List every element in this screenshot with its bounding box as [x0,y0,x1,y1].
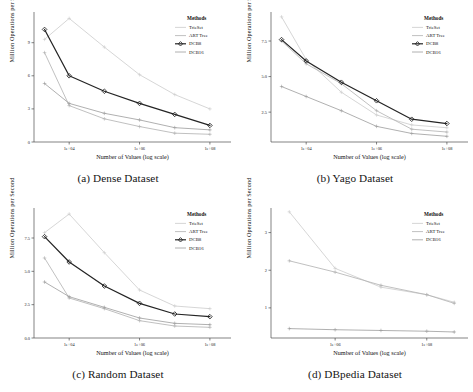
series-line-art-tree [282,41,447,132]
x-tick-label: 1e+08 [421,342,433,347]
data-point-marker [208,128,212,132]
legend-entry-dcb16: DCB16 [189,246,204,251]
y-tick-label: 3 [265,230,268,235]
data-point-marker [445,126,449,130]
legend-entry-dcb16: DCB16 [426,50,441,55]
x-tick-label: 1e+06 [371,146,383,151]
data-point-marker [173,93,177,97]
y-tick-label: 6 [28,73,31,78]
legend-title: Methods [187,15,206,21]
data-point-marker [103,117,107,121]
y-tick-label: 9 [28,40,31,45]
x-tick-label: 1e+08 [204,342,216,347]
x-tick-label: 1e+06 [330,342,342,347]
data-point-marker [173,131,177,135]
data-point-marker [138,316,142,320]
caption-d: (d) DBpedia Dataset [237,368,473,380]
legend-entry-art-tree: ART Tree [426,33,445,38]
plot-area-d: 1231e+061e+08Number of Values (log scale… [237,202,473,370]
series-line-trieset [45,18,210,108]
x-tick-label: 1e+04 [301,146,313,151]
y-tick-label: 2 [265,268,267,273]
data-point-marker [410,132,414,136]
y-tick-label: 7.5 [25,236,31,241]
legend-entry-art-tree: ART Tree [189,229,208,234]
data-point-marker [208,323,212,327]
data-point-marker [288,327,292,331]
y-tick-label: 5.0 [262,74,268,79]
series-line-trieset [282,17,447,128]
x-tick-label: 1e+08 [441,146,453,151]
legend-title: Methods [424,211,443,217]
plot-area-a: 03691e+041e+061e+08Number of Values (log… [0,6,236,174]
data-point-marker [425,293,429,297]
legend-entry-art-tree: ART Tree [426,229,445,234]
chart-svg-dense: 03691e+041e+061e+08Number of Values (log… [0,6,236,174]
y-tick-label: 7.5 [262,39,268,44]
data-point-marker [208,107,212,111]
series-line-art-tree [289,261,454,304]
x-tick-label: 1e+06 [134,342,146,347]
x-tick-label: 1e+04 [64,146,76,151]
legend-entry-trieset: TrieSet [189,25,204,30]
x-tick-label: 1e+06 [134,146,146,151]
series-line-dcb16 [289,329,454,332]
legend-entry-dcb16: DCB16 [426,237,441,242]
x-axis-label: Number of Values (log scale) [96,349,168,357]
data-point-marker [138,125,142,129]
x-axis-label: Number of Values (log scale) [333,349,405,357]
legend-entry-dcb16: DCB16 [189,50,204,55]
data-point-marker [43,256,47,260]
legend-entry-dcb8: DCB8 [189,41,202,46]
data-point-marker [445,130,449,134]
series-line-dcb16 [45,282,210,325]
legend-entry-dcb8: DCB8 [189,237,202,242]
figure-root: Million Operations per Second 03691e+041… [0,0,473,392]
data-point-marker [410,123,414,127]
data-point-marker [43,280,47,284]
data-point-marker [103,112,107,116]
data-point-marker [333,328,337,332]
data-point-marker [173,126,177,130]
y-tick-label: 5.0 [25,269,31,274]
x-tick-label: 1e+08 [204,146,216,151]
chart-svg-yago: 2.55.07.51e+041e+061e+08Number of Values… [237,6,473,174]
series-line-art-tree [45,258,210,327]
data-point-marker [138,118,142,122]
caption-c: (c) Random Dataset [0,368,236,380]
y-axis-label-c: Million Operations per Second [14,98,26,218]
y-tick-label: 3 [28,106,31,111]
legend-entry-trieset: TrieSet [426,221,441,226]
panel-random: Million Operations per Second 0.02.55.07… [0,196,236,392]
data-point-marker [379,329,383,333]
data-point-marker [173,322,177,326]
panel-yago: Million Operations per Second 2.55.07.51… [237,0,473,196]
x-tick-label: 1e+04 [64,342,76,347]
data-point-marker [445,135,449,139]
y-tick-label: 2.5 [25,302,31,307]
legend-title: Methods [187,211,206,217]
plot-area-b: 2.55.07.51e+041e+061e+08Number of Values… [237,6,473,174]
legend-entry-trieset: TrieSet [426,25,441,30]
data-point-marker [208,307,212,311]
legend-entry-dcb8: DCB8 [426,41,439,46]
data-point-marker [425,329,429,333]
y-tick-label: 0 [28,140,31,145]
chart-svg-random: 0.02.55.07.51e+041e+061e+08Number of Val… [0,202,236,370]
caption-b: (b) Yago Dataset [237,172,473,184]
y-tick-label: 0.0 [25,336,31,341]
data-point-marker [43,51,47,55]
x-axis-label: Number of Values (log scale) [333,153,405,161]
y-tick-label: 1 [265,305,267,310]
data-point-marker [288,259,292,263]
caption-a: (a) Dense Dataset [0,172,236,184]
data-point-marker [280,85,284,89]
chart-svg-dbpedia: 1231e+061e+08Number of Values (log scale… [237,202,473,370]
y-axis-label-d: Million Operations per Second [251,98,263,218]
plot-area-c: 0.02.55.07.51e+041e+061e+08Number of Val… [0,202,236,370]
panel-dense: Million Operations per Second 03691e+041… [0,0,236,196]
data-point-marker [333,270,337,274]
data-point-marker [173,304,177,308]
x-axis-label: Number of Values (log scale) [96,153,168,161]
data-point-marker [280,15,284,19]
